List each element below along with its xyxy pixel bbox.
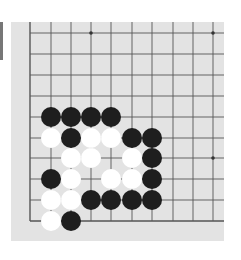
black-stone[interactable] [41, 169, 61, 189]
black-stone[interactable] [61, 211, 81, 231]
black-stone[interactable] [61, 107, 81, 127]
white-stone[interactable] [81, 128, 101, 148]
board-grid[interactable] [11, 22, 224, 241]
white-stone[interactable] [61, 148, 81, 168]
white-stone[interactable] [61, 190, 81, 210]
black-stone[interactable] [142, 128, 162, 148]
black-stone[interactable] [41, 107, 61, 127]
white-stone[interactable] [41, 211, 61, 231]
white-stone[interactable] [61, 169, 81, 189]
side-marker-bar [0, 22, 3, 60]
black-stone[interactable] [81, 190, 101, 210]
black-stone[interactable] [142, 190, 162, 210]
black-stone[interactable] [122, 190, 142, 210]
go-board[interactable] [11, 22, 224, 241]
white-stone[interactable] [81, 148, 101, 168]
black-stone[interactable] [101, 190, 121, 210]
white-stone[interactable] [41, 190, 61, 210]
white-stone[interactable] [122, 169, 142, 189]
black-stone[interactable] [81, 107, 101, 127]
black-stone[interactable] [122, 128, 142, 148]
white-stone[interactable] [101, 128, 121, 148]
white-stone[interactable] [122, 148, 142, 168]
star-point [89, 31, 93, 35]
star-point [211, 156, 215, 160]
black-stone[interactable] [101, 107, 121, 127]
black-stone[interactable] [61, 128, 81, 148]
white-stone[interactable] [101, 169, 121, 189]
star-point [211, 31, 215, 35]
white-stone[interactable] [41, 128, 61, 148]
black-stone[interactable] [142, 169, 162, 189]
black-stone[interactable] [142, 148, 162, 168]
